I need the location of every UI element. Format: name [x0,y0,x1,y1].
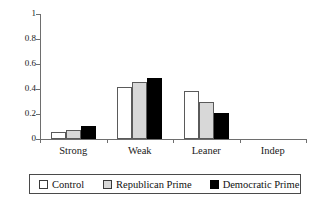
legend-entry-control: Control [39,179,84,190]
bar-weak-republican-prime [132,82,147,139]
gray-square-icon [103,180,112,189]
black-square-icon [210,180,219,189]
bar-weak-democratic-prime [147,78,162,139]
legend-label: Control [52,179,84,190]
x-category-label-indep: Indep [240,145,307,157]
bar-leaner-democratic-prime [214,113,229,139]
x-tick-mark [107,139,108,143]
bar-chart: 00.20.40.60.81 StrongWeakLeanerIndep Con… [0,0,314,203]
bar-strong-democratic-prime [81,126,96,139]
x-tick-mark [240,139,241,143]
bar-weak-control [117,87,132,139]
bar-strong-republican-prime [66,130,81,139]
bar-leaner-control [184,91,199,139]
bar-leaner-republican-prime [199,102,214,140]
bar-strong-control [51,132,66,139]
legend-label: Republican Prime [116,179,192,190]
legend-label: Democratic Prime [223,179,300,190]
chart-legend: ControlRepublican PrimeDemocratic Prime [29,174,301,194]
plot-area: 00.20.40.60.81 StrongWeakLeanerIndep [0,0,314,165]
x-category-label-weak: Weak [107,145,174,157]
bars-layer [0,0,314,139]
x-tick-mark [173,139,174,143]
legend-entry-democratic-prime: Democratic Prime [210,179,300,190]
x-tick-mark [306,139,307,143]
legend-entry-republican-prime: Republican Prime [103,179,192,190]
x-category-label-leaner: Leaner [173,145,240,157]
x-category-label-strong: Strong [40,145,107,157]
x-tick-mark [40,139,41,143]
white-square-icon [39,180,48,189]
